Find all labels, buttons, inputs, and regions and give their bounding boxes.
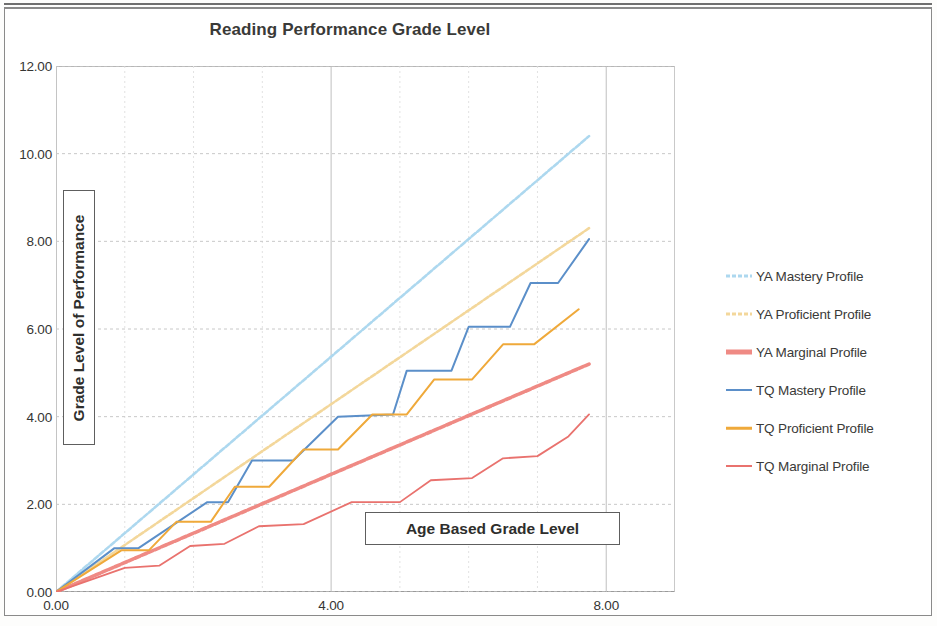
page-top-rule [4, 3, 932, 5]
legend-item[interactable]: YA Marginal Profile [726, 333, 926, 371]
legend-swatch-icon [726, 308, 752, 320]
y-axis-tick-label: 4.00 [0, 409, 52, 424]
legend-item-label: TQ Proficient Profile [756, 421, 874, 436]
y-axis-tick-label: 6.00 [0, 322, 52, 337]
legend-item-label: YA Marginal Profile [756, 345, 867, 360]
y-axis-title-text: Grade Level of Performance [70, 214, 88, 421]
x-axis-tick-labels: 0.004.008.00 [56, 598, 675, 620]
x-axis-title: Age Based Grade Level [365, 512, 620, 545]
x-axis-title-text: Age Based Grade Level [406, 520, 579, 538]
legend-item-label: TQ Marginal Profile [756, 459, 869, 474]
series-line [56, 309, 579, 592]
y-axis-tick-label: 8.00 [0, 234, 52, 249]
legend-item[interactable]: YA Proficient Profile [726, 295, 926, 333]
legend-item-label: TQ Mastery Profile [756, 383, 866, 398]
y-axis-tick-label: 10.00 [0, 146, 52, 161]
x-axis-tick-label: 0.00 [43, 598, 68, 613]
y-axis-tick-labels: 0.002.004.006.008.0010.0012.00 [0, 66, 52, 592]
x-axis-tick-label: 8.00 [593, 598, 618, 613]
x-axis-tick-label: 4.00 [318, 598, 343, 613]
y-axis-title: Grade Level of Performance [63, 190, 95, 445]
legend-swatch-icon [726, 270, 752, 282]
legend-swatch-icon [726, 460, 752, 472]
chart-legend: YA Mastery ProfileYA Proficient ProfileY… [726, 257, 926, 485]
chart-page: Reading Performance Grade Level 0.002.00… [0, 0, 937, 626]
legend-item-label: YA Proficient Profile [756, 307, 871, 322]
legend-swatch-icon [726, 384, 752, 396]
legend-item[interactable]: TQ Marginal Profile [726, 447, 926, 485]
legend-item[interactable]: TQ Proficient Profile [726, 409, 926, 447]
series-line [56, 364, 589, 592]
y-axis-tick-label: 2.00 [0, 497, 52, 512]
legend-item[interactable]: TQ Mastery Profile [726, 371, 926, 409]
series-line [56, 414, 589, 592]
legend-item-label: YA Mastery Profile [756, 269, 863, 284]
legend-swatch-icon [726, 422, 752, 434]
chart-title: Reading Performance Grade Level [0, 20, 700, 40]
legend-item[interactable]: YA Mastery Profile [726, 257, 926, 295]
y-axis-tick-label: 12.00 [0, 59, 52, 74]
legend-swatch-icon [726, 346, 752, 358]
